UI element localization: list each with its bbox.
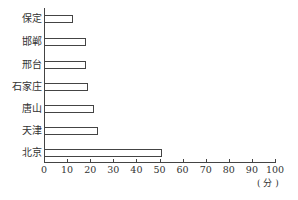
x-tick-label: 20 — [78, 164, 102, 175]
x-tick-label: 40 — [124, 164, 148, 175]
category-label-tangshan: 唐山 — [2, 104, 42, 114]
x-tick-label: 80 — [217, 164, 241, 175]
x-tick — [183, 159, 184, 162]
x-tick-label: 10 — [55, 164, 79, 175]
x-tick — [229, 159, 230, 162]
x-tick — [206, 159, 207, 162]
bar-beijing — [44, 149, 162, 157]
category-label-handan: 邯郸 — [2, 37, 42, 47]
category-label-baoding: 保定 — [2, 14, 42, 24]
x-tick — [67, 159, 68, 162]
x-tick-label: 30 — [101, 164, 125, 175]
bar-tianjin — [44, 127, 98, 135]
x-tick — [90, 159, 91, 162]
category-label-xingtai: 邢台 — [2, 60, 42, 70]
x-tick-label: 100 — [263, 164, 287, 175]
bar-handan — [44, 38, 86, 46]
x-tick-label: 90 — [240, 164, 264, 175]
x-tick — [275, 159, 276, 162]
x-axis-unit-label: ( 分 ) — [257, 176, 279, 189]
bar-tangshan — [44, 105, 94, 113]
x-tick-label: 50 — [148, 164, 172, 175]
horizontal-bar-chart: 保定 邯郸 邢台 石家庄 唐山 天津 北京 010203040506070809… — [0, 0, 298, 200]
x-tick — [136, 159, 137, 162]
x-tick-label: 0 — [32, 164, 56, 175]
category-label-tianjin: 天津 — [2, 126, 42, 136]
x-tick — [160, 159, 161, 162]
x-tick-label: 70 — [194, 164, 218, 175]
bar-shijiazhuang — [44, 83, 88, 91]
x-axis-line — [44, 162, 276, 163]
category-label-beijing: 北京 — [2, 148, 42, 158]
x-tick — [252, 159, 253, 162]
category-label-shijiazhuang: 石家庄 — [2, 82, 42, 92]
x-tick — [113, 159, 114, 162]
bar-xingtai — [44, 61, 86, 69]
bar-baoding — [44, 15, 73, 23]
x-tick-label: 60 — [171, 164, 195, 175]
